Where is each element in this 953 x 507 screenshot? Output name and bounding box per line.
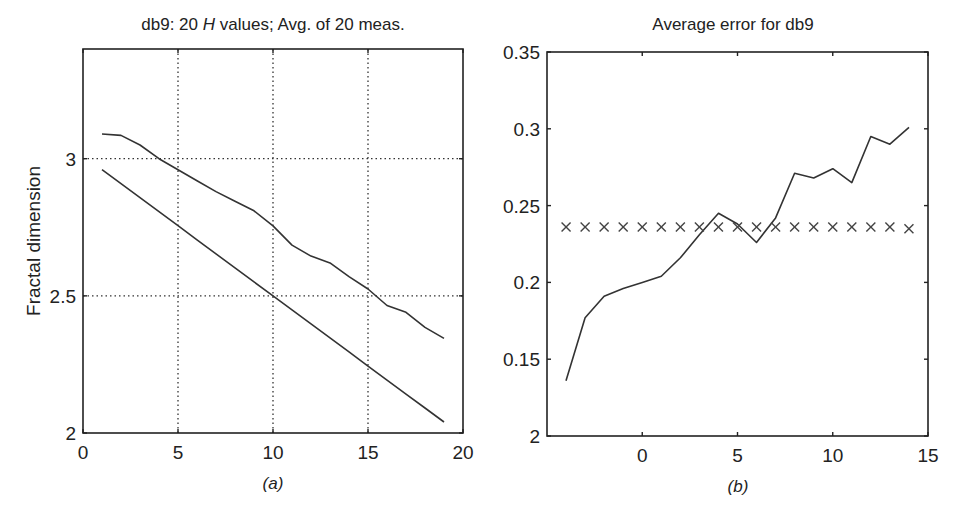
figure: db9: 20 H values; Avg. of 20 meas. 05101… [0,0,953,507]
x-marker [809,223,818,232]
panel-b-caption: (b) [728,477,749,496]
panel-a-title: db9: 20 H values; Avg. of 20 meas. [141,15,404,34]
panel-a-axes-box [83,49,463,433]
panel-b-series-error [566,127,909,380]
x-marker [581,223,590,232]
x-marker [885,223,894,232]
y-tick-label: 0.25 [503,196,540,217]
x-marker [676,223,685,232]
y-tick-label: 0.35 [503,42,540,63]
panel-a-ylabel: Fractal dimension [23,166,44,316]
x-marker [847,223,856,232]
x-tick-label: 0 [637,445,648,466]
panel-b-average-error: Average error for db9 05101520.150.20.25… [503,15,939,496]
y-tick-label: 0.15 [503,349,540,370]
x-marker [695,223,704,232]
panel-a-series-estimated [102,134,444,338]
x-marker [828,223,837,232]
x-tick-label: 20 [452,442,473,463]
x-tick-label: 0 [78,442,89,463]
x-marker [657,223,666,232]
y-tick-label: 2.5 [50,286,76,307]
y-tick-label: 0.2 [514,272,540,293]
x-marker [714,223,723,232]
x-tick-label: 5 [732,445,743,466]
panel-a-ticks: 0510152022.53 [50,49,474,463]
panel-a-caption: (a) [263,474,284,493]
x-marker [904,224,913,233]
panel-b-title: Average error for db9 [652,15,813,34]
panel-b-ticks: 05101520.150.20.250.30.35 [503,42,939,466]
x-marker [638,223,647,232]
x-marker [866,223,875,232]
x-marker [619,223,628,232]
x-tick-label: 15 [357,442,378,463]
panel-a-grid [83,49,463,433]
panel-b-axes-box [547,52,928,436]
x-tick-label: 10 [822,445,843,466]
panel-a-fractal-dimension: db9: 20 H values; Avg. of 20 meas. 05101… [23,15,474,493]
x-marker [600,223,609,232]
x-marker [771,223,780,232]
y-tick-label: 3 [65,149,76,170]
x-tick-label: 15 [917,445,938,466]
x-marker [790,223,799,232]
y-tick-label: 2 [529,426,540,447]
x-tick-label: 5 [173,442,184,463]
y-tick-label: 2 [65,423,76,444]
x-marker [562,223,571,232]
x-marker [752,223,761,232]
y-tick-label: 0.3 [514,119,540,140]
panel-b-lines [562,127,914,380]
x-tick-label: 10 [262,442,283,463]
